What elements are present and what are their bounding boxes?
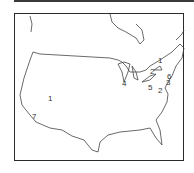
us-outline-map bbox=[0, 0, 194, 173]
map-label: 3 bbox=[166, 79, 170, 87]
map-label: 1 bbox=[158, 57, 162, 65]
map-label: 7 bbox=[32, 113, 36, 121]
map-label: 4 bbox=[122, 80, 126, 88]
map-label: 5 bbox=[148, 84, 152, 92]
map-label: 2 bbox=[150, 68, 154, 76]
map-label: 1 bbox=[48, 95, 52, 103]
map-label: 2 bbox=[158, 87, 162, 95]
